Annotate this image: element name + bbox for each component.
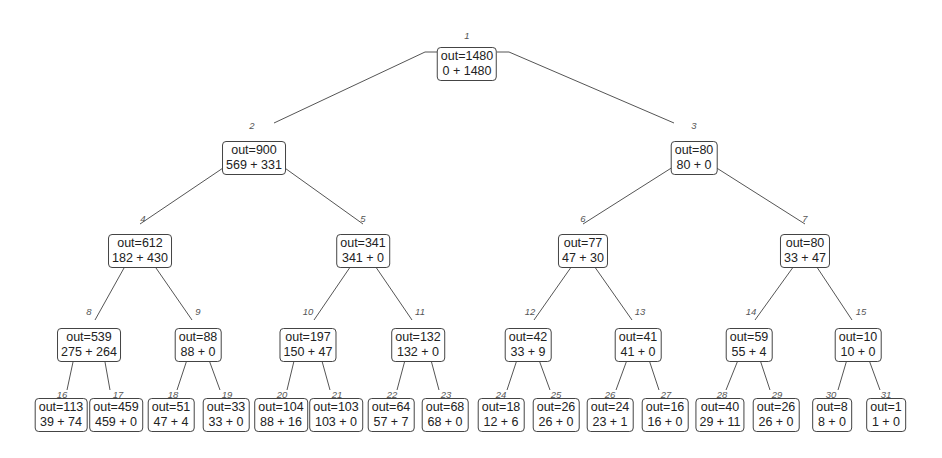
tree-node-17: out=459459 + 0 bbox=[89, 398, 143, 432]
node-out: out=10 bbox=[839, 330, 878, 345]
tree-edge bbox=[282, 166, 363, 224]
tree-edge bbox=[397, 362, 405, 390]
node-split: 68 + 0 bbox=[426, 415, 465, 430]
tree-edge bbox=[377, 268, 413, 320]
tree-node-1: out=14800 + 1480 bbox=[437, 47, 497, 81]
node-out: out=64 bbox=[372, 400, 411, 415]
node-id-label: 5 bbox=[360, 213, 365, 224]
node-id-label: 8 bbox=[86, 306, 91, 317]
tree-node-13: out=4141 + 0 bbox=[615, 328, 662, 362]
tree-edge bbox=[432, 362, 440, 390]
tree-node-3: out=8080 + 0 bbox=[671, 141, 718, 175]
tree-edge bbox=[507, 362, 516, 390]
node-id-label: 12 bbox=[525, 306, 536, 317]
tree-edge bbox=[314, 268, 350, 320]
node-out: out=42 bbox=[509, 330, 548, 345]
node-out: out=80 bbox=[784, 236, 826, 251]
node-split: 8 + 0 bbox=[816, 415, 848, 430]
tree-edge bbox=[497, 52, 674, 123]
tree-node-10: out=197150 + 47 bbox=[279, 328, 336, 362]
node-split: 12 + 6 bbox=[482, 415, 521, 430]
node-split: 80 + 0 bbox=[675, 158, 714, 173]
node-split: 341 + 0 bbox=[340, 251, 386, 266]
node-split: 23 + 1 bbox=[591, 415, 630, 430]
tree-edge bbox=[95, 268, 124, 320]
node-id-label: 13 bbox=[635, 306, 646, 317]
tree-edge bbox=[583, 166, 675, 224]
node-out: out=18 bbox=[482, 400, 521, 415]
tree-edge bbox=[322, 362, 330, 390]
tree-node-4: out=612182 + 430 bbox=[108, 234, 172, 268]
tree-node-30: out=88 + 0 bbox=[812, 398, 852, 432]
node-out: out=26 bbox=[537, 400, 576, 415]
tree-edge bbox=[156, 268, 192, 320]
node-out: out=104 bbox=[258, 400, 304, 415]
tree-node-23: out=6868 + 0 bbox=[422, 398, 469, 432]
node-split: 88 + 16 bbox=[258, 415, 304, 430]
tree-edge bbox=[650, 362, 659, 390]
node-out: out=8 bbox=[816, 400, 848, 415]
node-split: 55 + 4 bbox=[730, 345, 769, 360]
tree-node-12: out=4233 + 9 bbox=[505, 328, 552, 362]
node-out: out=40 bbox=[699, 400, 740, 415]
node-split: 569 + 331 bbox=[226, 158, 282, 173]
tree-node-29: out=2626 + 0 bbox=[753, 398, 800, 432]
tree-edge bbox=[274, 52, 437, 123]
node-split: 0 + 1480 bbox=[441, 64, 493, 79]
tree-node-28: out=4029 + 11 bbox=[695, 398, 744, 432]
node-out: out=113 bbox=[39, 400, 84, 415]
node-out: out=24 bbox=[591, 400, 630, 415]
node-id-label: 3 bbox=[691, 120, 696, 131]
node-split: 29 + 11 bbox=[699, 415, 740, 430]
tree-node-11: out=132132 + 0 bbox=[391, 328, 445, 362]
tree-edge bbox=[140, 166, 226, 224]
node-id-label: 14 bbox=[746, 306, 757, 317]
node-id-label: 2 bbox=[249, 120, 254, 131]
tree-node-25: out=2626 + 0 bbox=[533, 398, 580, 432]
tree-edge bbox=[540, 362, 550, 390]
node-split: 26 + 0 bbox=[537, 415, 576, 430]
node-id-label: 7 bbox=[802, 213, 807, 224]
node-id-label: 11 bbox=[415, 306, 425, 317]
tree-edge bbox=[714, 166, 806, 224]
node-id-label: 1 bbox=[464, 30, 469, 41]
tree-node-6: out=7747 + 30 bbox=[558, 234, 608, 268]
node-split: 88 + 0 bbox=[179, 345, 218, 360]
node-split: 47 + 30 bbox=[562, 251, 604, 266]
node-out: out=59 bbox=[730, 330, 769, 345]
tree-node-21: out=103103 + 0 bbox=[309, 398, 363, 432]
node-id-label: 9 bbox=[195, 306, 200, 317]
tree-node-27: out=1616 + 0 bbox=[642, 398, 689, 432]
node-out: out=77 bbox=[562, 236, 604, 251]
tree-node-5: out=341341 + 0 bbox=[336, 234, 390, 268]
tree-edge bbox=[761, 362, 770, 390]
tree-node-22: out=6457 + 7 bbox=[368, 398, 415, 432]
tree-edge bbox=[726, 362, 737, 390]
tree-edge bbox=[67, 362, 73, 390]
node-split: 47 + 4 bbox=[152, 415, 191, 430]
node-out: out=51 bbox=[152, 400, 191, 415]
node-out: out=539 bbox=[61, 330, 117, 345]
node-split: 16 + 0 bbox=[646, 415, 685, 430]
node-out: out=132 bbox=[395, 330, 441, 345]
tree-node-8: out=539275 + 264 bbox=[57, 328, 121, 362]
tree-edge bbox=[105, 362, 110, 390]
node-id-label: 10 bbox=[303, 306, 314, 317]
tree-edge bbox=[755, 268, 793, 320]
tree-edge bbox=[534, 268, 571, 320]
node-out: out=197 bbox=[283, 330, 332, 345]
tree-node-18: out=5147 + 4 bbox=[148, 398, 195, 432]
tree-node-14: out=5955 + 4 bbox=[726, 328, 773, 362]
node-split: 132 + 0 bbox=[395, 345, 441, 360]
tree-node-24: out=1812 + 6 bbox=[478, 398, 525, 432]
node-out: out=900 bbox=[226, 143, 282, 158]
node-split: 33 + 47 bbox=[784, 251, 826, 266]
tree-node-20: out=10488 + 16 bbox=[254, 398, 308, 432]
node-id-label: 15 bbox=[856, 306, 867, 317]
node-split: 182 + 430 bbox=[112, 251, 168, 266]
node-out: out=68 bbox=[426, 400, 465, 415]
tree-edge bbox=[177, 362, 186, 390]
tree-node-15: out=1010 + 0 bbox=[835, 328, 882, 362]
node-split: 10 + 0 bbox=[839, 345, 878, 360]
tree-node-31: out=11 + 0 bbox=[866, 398, 906, 432]
